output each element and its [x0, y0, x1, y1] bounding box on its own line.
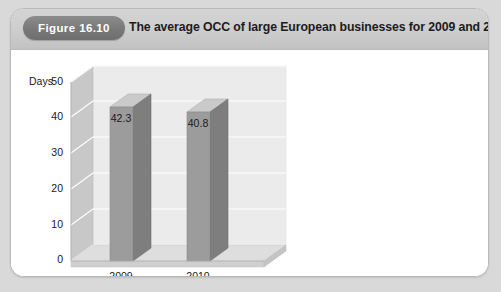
- bar-2009-front: [110, 107, 133, 261]
- bar-chart-3d: [11, 50, 488, 276]
- figure-card: Figure 16.10 The average OCC of large Eu…: [10, 8, 489, 277]
- y-tick-label-40: 40: [41, 110, 63, 122]
- bar-value-label-2010: 40.8: [181, 117, 215, 129]
- chart-floor-front-edge: [71, 261, 264, 267]
- chart-area: Days 50 40 30 20 10 0 42.3 40.8 2009 201…: [11, 50, 488, 276]
- y-tick-label-50: 50: [41, 75, 63, 87]
- figure-number-badge: Figure 16.10: [23, 16, 125, 40]
- bar-2010-front: [187, 112, 210, 261]
- figure-title: The average OCC of large European busine…: [129, 20, 489, 34]
- y-tick-label-0: 0: [41, 253, 63, 265]
- y-tick-label-10: 10: [41, 218, 63, 230]
- page-root: Figure 16.10 The average OCC of large Eu…: [0, 0, 501, 292]
- y-tick-label-20: 20: [41, 182, 63, 194]
- chart-left-wall: [71, 66, 93, 261]
- bar-value-label-2009: 42.3: [104, 112, 138, 124]
- x-category-label-2010: 2010: [180, 270, 216, 277]
- y-tick-label-30: 30: [41, 146, 63, 158]
- figure-header: Figure 16.10 The average OCC of large Eu…: [11, 9, 488, 50]
- x-category-label-2009: 2009: [103, 270, 139, 277]
- chart-floor: [71, 245, 286, 261]
